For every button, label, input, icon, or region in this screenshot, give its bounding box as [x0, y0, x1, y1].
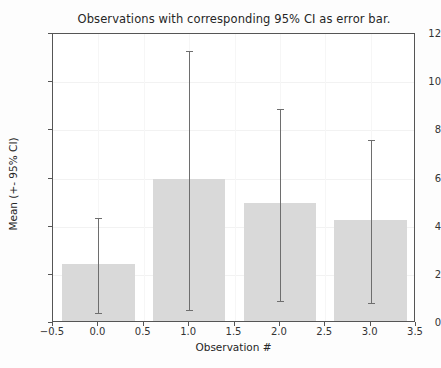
x-tick-mark	[324, 322, 325, 326]
x-tick-mark	[415, 322, 416, 326]
error-bar-cap-upper	[277, 109, 284, 110]
x-axis-label: Observation #	[52, 341, 415, 353]
y-tick-mark	[48, 33, 52, 34]
y-tick-label: 2	[397, 268, 441, 279]
error-bars-layer	[53, 34, 414, 321]
x-tick-label: 1.5	[211, 326, 257, 337]
chart-figure: Observations with corresponding 95% CI a…	[0, 0, 441, 368]
x-tick-label: −0.5	[29, 326, 75, 337]
y-tick-mark	[48, 274, 52, 275]
error-bar-cap-upper	[186, 51, 193, 52]
y-tick-mark	[48, 178, 52, 179]
x-tick-mark	[143, 322, 144, 326]
plot-area	[52, 33, 415, 322]
x-tick-mark	[234, 322, 235, 326]
y-axis-label: Mean (+- 95% CI)	[7, 109, 19, 259]
error-bar-cap-lower	[368, 303, 375, 304]
chart-title: Observations with corresponding 95% CI a…	[52, 12, 416, 26]
x-tick-label: 1.0	[165, 326, 211, 337]
x-tick-mark	[188, 322, 189, 326]
error-bar-cap-lower	[186, 310, 193, 311]
error-bar-line	[98, 218, 99, 314]
y-tick-label: 8	[397, 124, 441, 135]
y-tick-label: 10	[397, 76, 441, 87]
x-tick-label: 0.0	[74, 326, 120, 337]
x-tick-label: 3.5	[392, 326, 438, 337]
x-tick-label: 0.5	[120, 326, 166, 337]
error-bar-cap-upper	[95, 218, 102, 219]
x-tick-mark	[97, 322, 98, 326]
error-bar-line	[280, 109, 281, 301]
x-tick-mark	[279, 322, 280, 326]
x-tick-mark	[370, 322, 371, 326]
y-tick-label: 4	[397, 220, 441, 231]
y-tick-mark	[48, 226, 52, 227]
y-tick-label: 6	[397, 172, 441, 183]
y-tick-label: 12	[397, 28, 441, 39]
error-bar-cap-lower	[277, 301, 284, 302]
error-bar-cap-upper	[368, 140, 375, 141]
y-tick-mark	[48, 81, 52, 82]
x-tick-mark	[52, 322, 53, 326]
x-tick-label: 2.5	[301, 326, 347, 337]
x-tick-label: 3.0	[347, 326, 393, 337]
y-tick-mark	[48, 129, 52, 130]
x-tick-label: 2.0	[256, 326, 302, 337]
error-bar-line	[189, 51, 190, 311]
error-bar-cap-lower	[95, 313, 102, 314]
error-bar-line	[371, 140, 372, 303]
